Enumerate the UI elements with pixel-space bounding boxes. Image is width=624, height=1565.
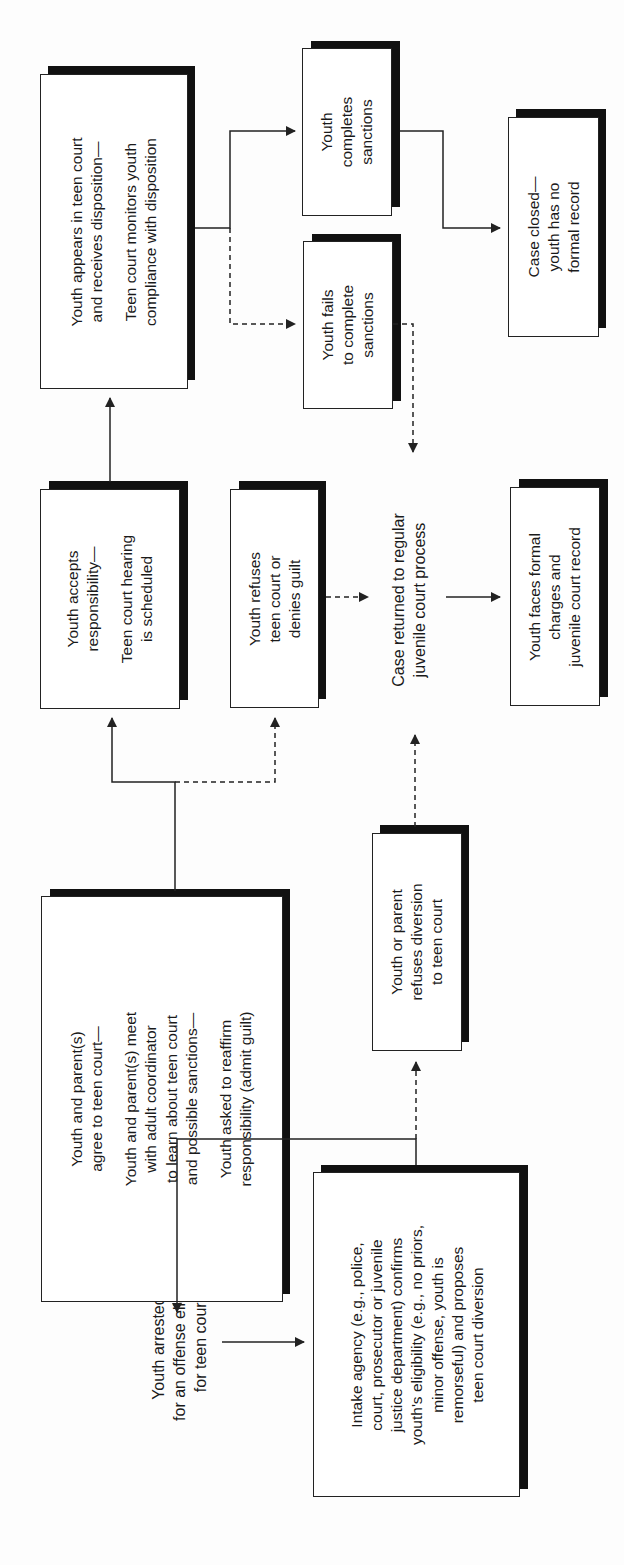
edge-agree-accepts bbox=[112, 718, 175, 891]
edge-appears-completes bbox=[195, 131, 295, 228]
edge-fails-case-returned bbox=[393, 324, 413, 452]
edge-intake-agree bbox=[177, 1139, 416, 1312]
edge-agree-refuses-teen-court bbox=[175, 718, 275, 782]
edge-completes-case-closed bbox=[400, 131, 500, 228]
edge-appears-fails bbox=[230, 228, 295, 324]
connector-layer bbox=[0, 0, 624, 1565]
